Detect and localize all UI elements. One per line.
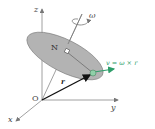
- y-label: y: [110, 103, 116, 112]
- n-label: N: [51, 43, 58, 52]
- position-vector-r: [42, 75, 90, 100]
- rotating-disk: [20, 23, 109, 90]
- x-label: x: [8, 115, 13, 124]
- omega-label: ω: [89, 11, 96, 20]
- r-label: r: [61, 77, 66, 86]
- x-axis: [16, 100, 42, 121]
- origin-label: O: [32, 94, 39, 103]
- particle-point: [90, 70, 96, 76]
- rotation-arrow-icon: [72, 19, 88, 25]
- z-label: z: [33, 5, 39, 14]
- rotation-diagram: z y x O ω N r v = ω × r: [0, 0, 155, 129]
- velocity-equation: v = ω × r: [106, 59, 138, 67]
